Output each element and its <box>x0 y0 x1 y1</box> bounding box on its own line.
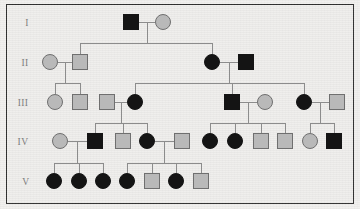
individual-V-6-female-affected[interactable] <box>169 174 184 189</box>
individual-IV-11-male-affected[interactable] <box>327 134 342 149</box>
gen-label-2: II <box>21 58 28 68</box>
individual-V-1-female-affected[interactable] <box>47 174 62 189</box>
individual-V-4-female-affected[interactable] <box>120 174 135 189</box>
individual-IV-7-female-affected[interactable] <box>228 134 243 149</box>
individual-V-2-female-affected[interactable] <box>72 174 87 189</box>
individual-V-7-male-unaffected[interactable] <box>194 174 209 189</box>
gen-label-5: V <box>22 177 29 187</box>
individual-III-4-female-affected[interactable] <box>128 95 143 110</box>
individual-IV-6-female-affected[interactable] <box>203 134 218 149</box>
pedigree-figure: IIIIIIIVV <box>0 0 360 209</box>
individual-III-1-female-unaffected[interactable] <box>48 95 63 110</box>
individual-IV-10-female-unaffected[interactable] <box>303 134 318 149</box>
individual-III-3-male-unaffected[interactable] <box>100 95 115 110</box>
individual-III-6-female-unaffected[interactable] <box>258 95 273 110</box>
individual-III-8-male-unaffected[interactable] <box>330 95 345 110</box>
individual-III-5-male-affected[interactable] <box>225 95 240 110</box>
generation-labels-layer: IIIIIIIVV <box>18 18 30 187</box>
individual-V-5-male-unaffected[interactable] <box>145 174 160 189</box>
individual-IV-2-male-affected[interactable] <box>88 134 103 149</box>
individual-IV-1-female-unaffected[interactable] <box>53 134 68 149</box>
individual-symbols-layer <box>43 15 345 189</box>
individual-II-2-male-unaffected[interactable] <box>73 55 88 70</box>
individual-IV-5-male-unaffected[interactable] <box>175 134 190 149</box>
individual-IV-4-female-affected[interactable] <box>140 134 155 149</box>
individual-V-3-female-affected[interactable] <box>96 174 111 189</box>
individual-IV-3-male-unaffected[interactable] <box>116 134 131 149</box>
pedigree-diagram: IIIIIIIVV <box>0 0 360 209</box>
individual-IV-8-male-unaffected[interactable] <box>254 134 269 149</box>
individual-I-1-male-affected[interactable] <box>124 15 139 30</box>
gen-label-4: IV <box>18 137 29 147</box>
individual-II-1-female-unaffected[interactable] <box>43 55 58 70</box>
individual-II-4-male-affected[interactable] <box>239 55 254 70</box>
individual-III-2-male-unaffected[interactable] <box>73 95 88 110</box>
individual-III-7-female-affected[interactable] <box>297 95 312 110</box>
connector-lines-layer <box>54 22 334 173</box>
individual-I-2-female-unaffected[interactable] <box>156 15 171 30</box>
individual-II-3-female-affected[interactable] <box>205 55 220 70</box>
individual-IV-9-male-unaffected[interactable] <box>278 134 293 149</box>
gen-label-3: III <box>18 98 29 108</box>
gen-label-1: I <box>25 18 29 28</box>
